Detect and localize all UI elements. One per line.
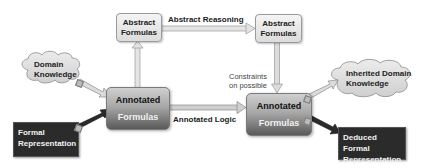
node-label-line2: Formulas [107, 112, 169, 122]
node-label-line2: Knowledge [34, 70, 77, 80]
node-label-line1: Annotated [247, 101, 311, 111]
node-label-line2: Formulas [247, 118, 311, 128]
annotated-logic-arrow [169, 102, 246, 114]
node-label-line1: Abstract [117, 18, 161, 28]
node-label-line2: Formulas [256, 29, 301, 39]
annotated-to-inherited-arrow [309, 80, 338, 98]
abstract-formulas-left-node: Abstract Formulas [116, 13, 162, 42]
annotated-formulas-right-node: Annotated Formulas [246, 93, 312, 136]
inherited-domain-knowledge-node: Inherited Domain Knowledge [346, 69, 411, 89]
node-label-line1: Domain [34, 60, 77, 70]
domain-knowledge-node: Domain Knowledge [34, 60, 77, 80]
node-label-line1: Formal [18, 127, 74, 138]
node-label-line2: Representation [343, 154, 401, 165]
abstract-reasoning-label: Abstract Reasoning [168, 15, 244, 24]
node-label-line2: Representation [18, 138, 74, 149]
annotated-logic-label: Annotated Logic [173, 115, 236, 124]
annotated-to-abstract-arrow [132, 41, 143, 88]
node-label-line1: Annotated [107, 95, 169, 105]
abstract-formulas-right-node: Abstract Formulas [255, 14, 302, 43]
abstract-reasoning-arrow [161, 23, 255, 34]
constraints-line2: on possible [229, 81, 267, 90]
node-label-line1: Deduced Formal [343, 132, 401, 154]
node-label-line2: Knowledge [346, 79, 411, 89]
constraints-line1: Constraints [229, 72, 267, 81]
node-label-line1: Abstract [256, 19, 301, 29]
node-label-line1: Inherited Domain [346, 69, 411, 79]
annotated-to-deduced-arrow [310, 116, 340, 134]
abstract-to-annotated-arrow [272, 41, 283, 93]
deduced-formal-representation-node: Deduced Formal Representation [338, 127, 406, 160]
formal-representation-node: Formal Representation [13, 122, 79, 157]
annotated-formulas-left-node: Annotated Formulas [106, 87, 170, 130]
constraints-label: Constraints on possible [229, 72, 267, 90]
node-label-line2: Formulas [117, 28, 161, 38]
